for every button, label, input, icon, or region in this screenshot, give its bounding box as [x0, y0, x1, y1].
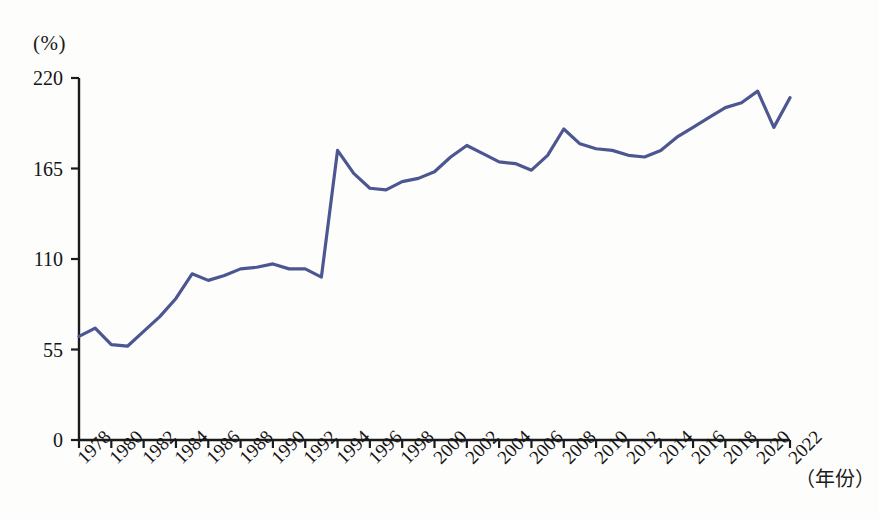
- series-line: [79, 91, 790, 346]
- y-tick-label: 110: [0, 248, 63, 271]
- y-tick-label: 165: [0, 157, 63, 180]
- y-tick-label: 220: [0, 67, 63, 90]
- y-tick-label: 55: [0, 338, 63, 361]
- y-tick-label: 0: [0, 429, 63, 452]
- data-series-group: [79, 91, 790, 346]
- line-chart-figure: (%) （年份） 055110165220 197819801982198419…: [0, 0, 879, 519]
